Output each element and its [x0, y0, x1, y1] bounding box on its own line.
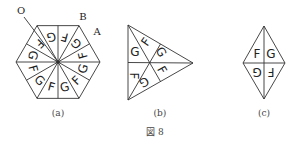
label-O: O: [17, 5, 25, 16]
triangle-median: [128, 63, 193, 64]
caption-b: (b): [154, 108, 167, 118]
sector-letter: F: [75, 50, 90, 60]
sector-letter: F: [25, 64, 40, 74]
sector-letter: F: [59, 29, 69, 44]
sector-letter: F: [254, 47, 261, 61]
caption-a: (a): [52, 108, 64, 118]
sector-letter: F: [46, 79, 56, 94]
figure-8-diagram: FGFGFGFGFGFGOBA(a)FGGFFG(b)FGFG(c)図 8: [0, 0, 295, 148]
caption-c: (c): [258, 108, 270, 118]
figure-title: 図 8: [146, 127, 164, 137]
sector-letter: G: [31, 72, 47, 88]
sector-letter: F: [267, 65, 274, 79]
sector-letter: G: [153, 44, 170, 59]
sector-letter: G: [266, 47, 275, 61]
sector-letter: G: [130, 45, 139, 59]
sector-letter: G: [252, 65, 261, 79]
sector-letter: G: [68, 35, 84, 51]
label-A: A: [92, 26, 101, 37]
label-B: B: [79, 11, 86, 22]
